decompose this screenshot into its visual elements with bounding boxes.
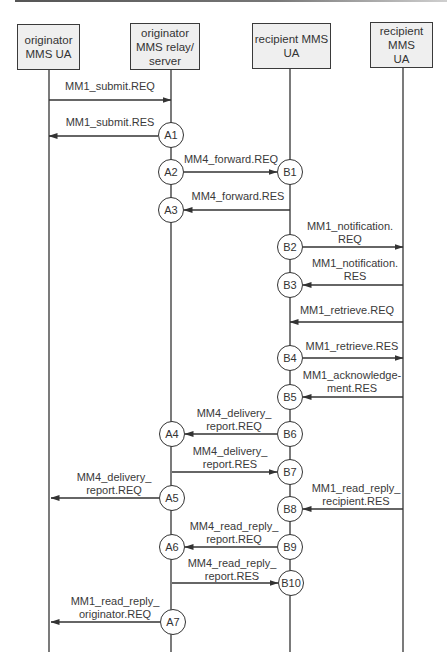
participant-box: originator MMS relay/ server xyxy=(130,23,200,70)
message-label: MM4_read_reply_ report.RES xyxy=(188,557,277,583)
message-label: MM1_notification. REQ xyxy=(307,220,393,246)
message-label: MM1_submit.REQ xyxy=(65,80,155,93)
state-node: B4 xyxy=(277,345,303,371)
state-node: A7 xyxy=(160,609,186,635)
state-node: B8 xyxy=(277,496,303,522)
state-node: B7 xyxy=(277,459,303,485)
state-node: A2 xyxy=(158,159,184,185)
state-node: A6 xyxy=(159,534,185,560)
message-label: MM4_delivery_ report.REQ xyxy=(197,407,272,433)
state-node: A1 xyxy=(158,122,184,148)
message-label: MM4_read_reply_ report.REQ xyxy=(190,520,279,546)
message-label: MM1_read_reply_ recipient.RES xyxy=(312,482,401,508)
state-node: B2 xyxy=(277,234,303,260)
message-label: MM4_delivery_ report.RES xyxy=(193,445,268,471)
message-label: MM1_retrieve.RES xyxy=(306,340,399,353)
message-label: MM4_delivery_ report.REQ xyxy=(77,471,152,497)
message-label: MM1_acknowledge- ment.RES xyxy=(303,369,401,395)
state-node: B10 xyxy=(278,570,304,596)
state-node: B6 xyxy=(277,421,303,447)
message-label: MM1_notification. RES xyxy=(312,257,398,283)
state-node: A4 xyxy=(159,421,185,447)
state-node: A5 xyxy=(159,485,185,511)
message-label: MM4_forward.RES xyxy=(192,190,285,203)
state-node: B9 xyxy=(277,534,303,560)
message-label: MM1_submit.RES xyxy=(66,116,155,129)
message-label: MM1_read_reply_ originator.REQ xyxy=(71,595,160,621)
message-label: MM4_forward.REQ xyxy=(184,153,278,166)
participant-box: recipient MMS UA xyxy=(370,22,433,68)
state-node: B3 xyxy=(277,272,303,298)
state-node: B1 xyxy=(277,159,303,185)
state-node: A3 xyxy=(158,197,184,223)
message-label: MM1_retrieve.REQ xyxy=(300,304,394,317)
participant-box: recipient MMS UA xyxy=(252,23,331,69)
state-node: B5 xyxy=(277,384,303,410)
participant-box: originator MMS UA xyxy=(17,24,80,70)
